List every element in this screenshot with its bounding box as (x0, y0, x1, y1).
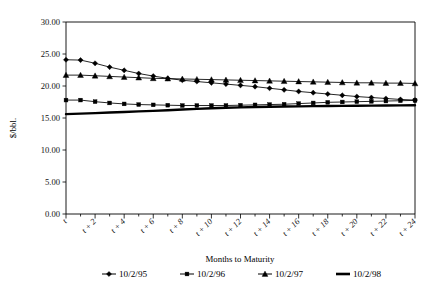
data-point-marker-diamond (296, 89, 301, 94)
legend-label: 10/2/98 (353, 269, 381, 279)
data-point-marker-diamond (78, 57, 83, 62)
data-point-marker-diamond (107, 65, 112, 70)
x-tick-label: t + 14 (252, 217, 273, 238)
y-tick-label: 15.00 (41, 113, 60, 123)
data-point-marker-diamond (238, 83, 243, 88)
x-axis-title: Months to Maturity (206, 254, 276, 264)
data-point-marker-diamond (282, 87, 287, 92)
series-10-2-98 (66, 105, 415, 114)
data-point-marker-square (151, 103, 155, 107)
x-tick-label: t + 18 (310, 216, 331, 237)
data-point-marker-square (369, 99, 373, 103)
legend-label: 10/2/95 (119, 269, 147, 279)
x-tick-label: t + 4 (109, 217, 127, 235)
x-tick-label: t (61, 217, 69, 225)
x-tick-label: t + 2 (80, 217, 98, 235)
chart-legend: 10/2/9510/2/9610/2/9710/2/98 (102, 269, 381, 279)
data-point-marker-square (108, 101, 112, 105)
data-point-marker-diamond (92, 61, 97, 66)
data-point-marker-square (413, 99, 417, 103)
data-point-marker-square (326, 100, 330, 104)
x-tick-label: t + 22 (368, 217, 389, 238)
data-point-marker-diamond (325, 91, 330, 96)
x-tick-label: t + 10 (193, 216, 214, 237)
data-point-marker-square (340, 100, 344, 104)
chart-container: $/bbl. 0.005.0010.0015.0020.0025.0030.00… (0, 0, 438, 292)
legend-entry-10-2-95[interactable]: 10/2/95 (102, 269, 147, 279)
legend-entry-10-2-98[interactable]: 10/2/98 (336, 269, 381, 279)
data-point-marker-diamond (106, 271, 111, 276)
data-point-marker-square (185, 272, 189, 276)
series-path (66, 105, 415, 114)
data-point-marker-diamond (340, 93, 345, 98)
x-tick-label: t + 8 (167, 216, 186, 235)
data-point-marker-square (355, 100, 359, 104)
data-point-marker-diamond (63, 57, 68, 62)
x-tick-label: t + 6 (138, 216, 157, 235)
y-tick-label: 20.00 (41, 81, 60, 91)
x-tick-label: t + 16 (281, 216, 302, 237)
y-tick-label: 25.00 (41, 49, 60, 59)
x-tick-label: t + 24 (397, 217, 418, 238)
legend-entry-10-2-97[interactable]: 10/2/97 (258, 269, 303, 279)
data-point-marker-square (122, 102, 126, 106)
data-point-marker-square (166, 103, 170, 107)
x-tick-label: t + 20 (339, 216, 360, 237)
legend-entry-10-2-96[interactable]: 10/2/96 (180, 269, 225, 279)
x-axis-tick-labels: tt + 2t + 4t + 6t + 8t + 10t + 12t + 14t… (61, 216, 418, 237)
data-point-marker-square (384, 99, 388, 103)
y-tick-label: 10.00 (41, 145, 60, 155)
legend-label: 10/2/96 (197, 269, 225, 279)
data-point-marker-square (64, 98, 68, 102)
data-point-marker-square (210, 104, 214, 108)
x-tick-label: t + 12 (223, 217, 244, 238)
data-point-marker-diamond (252, 84, 257, 89)
y-tick-label: 0.00 (45, 209, 60, 219)
y-axis-title: $/bbl. (8, 118, 18, 138)
data-series-group (63, 57, 418, 114)
data-point-marker-square (297, 102, 301, 106)
data-point-marker-diamond (354, 94, 359, 99)
data-point-marker-diamond (311, 90, 316, 95)
data-point-marker-square (180, 104, 184, 108)
axes (66, 22, 415, 214)
y-tick-label: 5.00 (45, 177, 60, 187)
data-point-marker-diamond (122, 68, 127, 73)
data-point-marker-square (79, 98, 83, 102)
x-axis-ticks (66, 214, 415, 219)
data-point-marker-square (137, 103, 141, 107)
y-tick-label: 30.00 (41, 17, 60, 27)
data-point-marker-square (93, 100, 97, 104)
data-point-marker-square (399, 99, 403, 103)
data-point-marker-square (311, 101, 315, 105)
legend-label: 10/2/97 (275, 269, 303, 279)
line-chart: $/bbl. 0.005.0010.0015.0020.0025.0030.00… (0, 0, 438, 292)
y-axis-ticks: 0.005.0010.0015.0020.0025.0030.00 (41, 17, 66, 219)
data-point-marker-square (195, 104, 199, 108)
data-point-marker-diamond (267, 86, 272, 91)
